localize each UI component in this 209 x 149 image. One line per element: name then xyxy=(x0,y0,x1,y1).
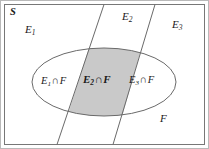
label-e1-intersect-f-tail: F xyxy=(60,75,66,86)
label-event-3-letter: E xyxy=(172,18,179,30)
label-sample-space-text: S xyxy=(10,6,16,17)
label-set-f: F xyxy=(160,113,167,124)
label-e2-intersect-f-operator: ∩ xyxy=(94,73,103,85)
label-e3-intersect-f-tail: F xyxy=(148,74,154,85)
label-event-1-subscript: 1 xyxy=(32,28,36,37)
label-event-3-subscript: 3 xyxy=(179,23,183,32)
label-e2-intersect-f-tail: F xyxy=(103,73,110,85)
label-e3-intersect-f-operator: ∩ xyxy=(139,74,148,85)
label-set-f-text: F xyxy=(160,112,167,124)
label-e2-intersect-f: E2∩F xyxy=(83,74,111,86)
label-event-2-letter: E xyxy=(122,10,129,22)
label-event-2: E2 xyxy=(122,11,132,23)
venn-diagram-figure: S E1 E2 E3 E1∩F E2∩F E3∩F F xyxy=(0,0,209,149)
label-e3-intersect-f: E3∩F xyxy=(129,75,154,87)
label-sample-space: S xyxy=(10,7,16,18)
label-e1-intersect-f: E1∩F xyxy=(41,76,66,88)
label-e1-intersect-f-operator: ∩ xyxy=(51,75,60,86)
label-event-3: E3 xyxy=(172,19,182,31)
label-event-1: E1 xyxy=(25,24,35,36)
label-event-1-letter: E xyxy=(25,23,32,35)
label-event-2-subscript: 2 xyxy=(129,15,133,24)
